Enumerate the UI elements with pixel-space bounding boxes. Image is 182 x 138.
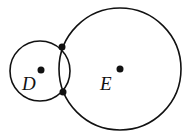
- label-D: D: [22, 74, 36, 93]
- intersection-top-point: [59, 44, 66, 51]
- intersection-bottom-point: [60, 89, 67, 96]
- center-D-point: [38, 67, 45, 74]
- circles-figure: [0, 0, 182, 138]
- center-E-point: [117, 66, 124, 73]
- label-E: E: [100, 74, 112, 93]
- diagram: D E: [0, 0, 182, 138]
